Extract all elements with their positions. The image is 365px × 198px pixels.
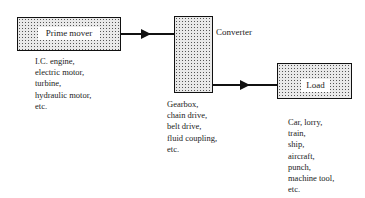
- load-label: Load: [301, 79, 330, 92]
- list-item: hydraulic motor,: [35, 90, 91, 101]
- list-item: belt drive,: [167, 121, 217, 132]
- list-item: aircraft,: [288, 151, 334, 162]
- list-item: etc.: [167, 144, 217, 155]
- list-item: etc.: [288, 184, 334, 195]
- list-item: machine tool,: [288, 173, 334, 184]
- converter-box: [174, 16, 213, 93]
- list-item: Car, lorry,: [288, 117, 334, 128]
- arrowhead-icon: [240, 80, 250, 90]
- list-item: train,: [288, 128, 334, 139]
- list-item: punch,: [288, 162, 334, 173]
- list-item: electric motor,: [35, 67, 91, 78]
- converter-label: Converter: [216, 27, 252, 37]
- list-item: Gearbox,: [167, 99, 217, 110]
- list-item: fluid coupling,: [167, 133, 217, 144]
- list-item: I.C. engine,: [35, 56, 91, 67]
- list-item: ship,: [288, 139, 334, 150]
- list-item: chain drive,: [167, 110, 217, 121]
- converter-examples: Gearbox, chain drive, belt drive, fluid …: [167, 99, 217, 155]
- arrowhead-icon: [141, 29, 151, 39]
- list-item: turbine,: [35, 78, 91, 89]
- load-examples: Car, lorry, train, ship, aircraft, punch…: [288, 117, 334, 195]
- prime-mover-label: Prime mover: [38, 27, 100, 40]
- list-item: etc.: [35, 101, 91, 112]
- prime-mover-examples: I.C. engine, electric motor, turbine, hy…: [35, 56, 91, 112]
